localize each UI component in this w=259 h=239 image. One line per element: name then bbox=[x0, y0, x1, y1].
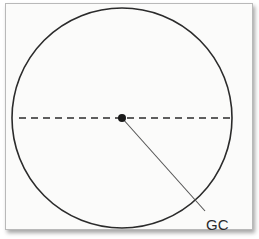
leader-line bbox=[122, 118, 205, 211]
gc-label: GC bbox=[206, 216, 229, 233]
center-point bbox=[118, 114, 126, 122]
circle-diagram: GC bbox=[0, 0, 259, 239]
